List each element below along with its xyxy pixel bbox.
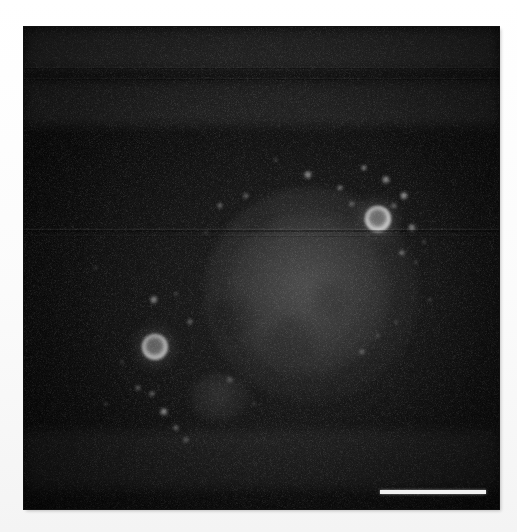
vesicle-upper-right-ring (365, 206, 391, 232)
vesicle-lower-left (142, 334, 168, 360)
punctum-17 (135, 385, 140, 390)
punctum-0 (304, 171, 312, 179)
punctum-6 (349, 201, 354, 206)
punctum-28 (227, 377, 232, 382)
punctum-20 (173, 425, 179, 431)
punctum-31 (94, 266, 98, 270)
punctum-18 (149, 391, 155, 397)
punctum-30 (428, 298, 432, 302)
punctum-7 (408, 224, 415, 231)
punctum-16 (187, 319, 193, 325)
vacuole-3 (246, 206, 278, 238)
vesicle-upper-right (365, 206, 391, 232)
punctum-14 (150, 296, 158, 304)
micrograph-figure (0, 0, 517, 532)
punctum-3 (382, 176, 390, 184)
punctum-11 (243, 193, 249, 199)
vacuole-2 (312, 282, 348, 318)
punctum-21 (183, 437, 188, 442)
vesicle-lower-left-ring (142, 334, 168, 360)
micrograph-plate (24, 27, 499, 509)
scale-bar (380, 490, 486, 494)
punctum-24 (359, 349, 365, 355)
vacuole-1 (268, 316, 316, 364)
vacuole-0 (210, 296, 254, 340)
